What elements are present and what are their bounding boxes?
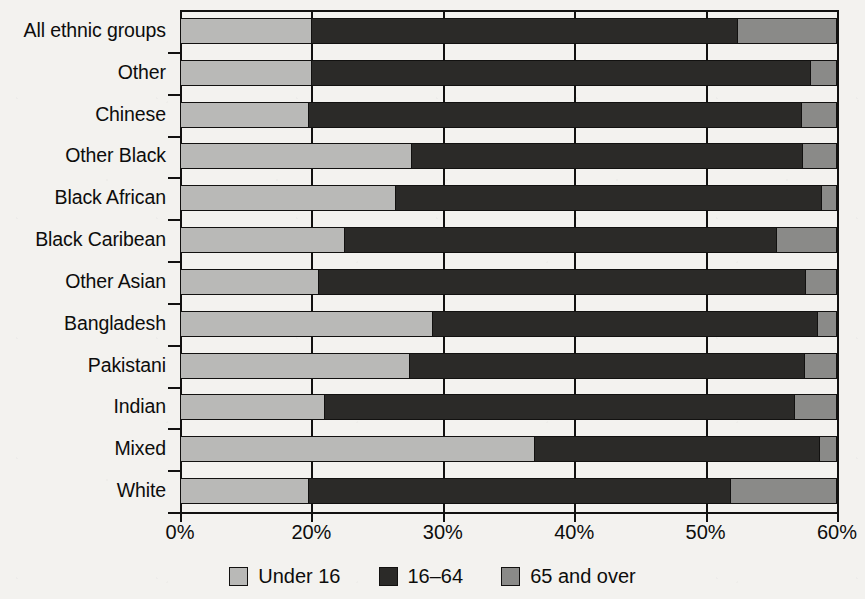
segment-under-16 — [181, 186, 396, 210]
bar-white — [180, 478, 837, 504]
segment-under-16 — [181, 19, 312, 43]
y-axis-label-white: White — [117, 481, 166, 501]
segment-65-and-over — [795, 395, 836, 419]
stacked-bar-chart: All ethnic groupsOtherChineseOther Black… — [0, 0, 865, 599]
chart-legend: Under 16 16–64 65 and over — [0, 558, 865, 594]
y-axis-label-chinese: Chinese — [95, 105, 166, 125]
segment-16-64 — [319, 270, 806, 294]
legend-label-65-and-over: 65 and over — [530, 566, 636, 586]
x-tick-label-30: 30% — [423, 521, 463, 543]
segment-65-and-over — [777, 228, 836, 252]
x-tick-label-0: 0% — [166, 521, 195, 543]
y-tick — [168, 52, 180, 54]
y-tick — [168, 136, 180, 138]
bar-black-caribean — [180, 227, 837, 253]
x-tick-40 — [574, 504, 576, 522]
light-gray-swatch-icon — [229, 567, 248, 586]
x-tick-60 — [837, 504, 839, 522]
legend-item-16-64: 16–64 — [379, 566, 464, 586]
mid-gray-swatch-icon — [501, 567, 520, 586]
bar-chinese — [180, 102, 837, 128]
y-axis-label-bangladesh: Bangladesh — [64, 314, 166, 334]
segment-65-and-over — [738, 19, 836, 43]
segment-under-16 — [181, 354, 410, 378]
segment-16-64 — [312, 61, 811, 85]
segment-16-64 — [412, 144, 804, 168]
segment-16-64 — [396, 186, 822, 210]
legend-label-16-64: 16–64 — [408, 566, 464, 586]
x-tick-label-20: 20% — [291, 521, 331, 543]
bar-mixed — [180, 436, 837, 462]
y-tick — [168, 428, 180, 430]
dark-swatch-icon — [379, 567, 398, 586]
segment-65-and-over — [818, 312, 836, 336]
bar-black-african — [180, 185, 837, 211]
y-axis-label-black-african: Black African — [55, 188, 166, 208]
y-axis-label-mixed: Mixed — [114, 439, 166, 459]
plot-frame-right — [837, 10, 839, 514]
x-tick-30 — [443, 504, 445, 522]
bar-bangladesh — [180, 311, 837, 337]
segment-65-and-over — [822, 186, 836, 210]
y-tick — [168, 94, 180, 96]
segment-under-16 — [181, 270, 319, 294]
bar-other-black — [180, 143, 837, 169]
segment-65-and-over — [806, 270, 836, 294]
segment-65-and-over — [803, 144, 836, 168]
y-tick — [168, 387, 180, 389]
y-axis-category-labels: All ethnic groupsOtherChineseOther Black… — [0, 0, 172, 512]
x-tick-0 — [180, 504, 182, 522]
segment-under-16 — [181, 61, 312, 85]
segment-under-16 — [181, 103, 309, 127]
y-tick — [168, 219, 180, 221]
x-tick-50 — [706, 504, 708, 522]
x-axis-line — [180, 512, 839, 514]
legend-item-65-and-over: 65 and over — [501, 566, 636, 586]
bar-indian — [180, 394, 837, 420]
y-axis-label-other-black: Other Black — [65, 146, 166, 166]
segment-under-16 — [181, 144, 412, 168]
x-tick-label-50: 50% — [686, 521, 726, 543]
x-tick-label-60: 60% — [817, 521, 857, 543]
legend-item-under-16: Under 16 — [229, 566, 340, 586]
segment-65-and-over — [820, 437, 836, 461]
y-tick — [168, 470, 180, 472]
y-tick — [168, 512, 180, 514]
x-tick-20 — [311, 504, 313, 522]
segment-16-64 — [309, 479, 731, 503]
segment-under-16 — [181, 479, 309, 503]
y-tick — [168, 303, 180, 305]
y-axis-label-black-caribean: Black Caribean — [35, 230, 166, 250]
bar-all-ethnic-groups — [180, 18, 837, 44]
segment-under-16 — [181, 395, 325, 419]
y-tick — [168, 261, 180, 263]
segment-65-and-over — [731, 479, 836, 503]
y-axis-label-pakistani: Pakistani — [88, 356, 166, 376]
y-axis-label-all-ethnic-groups: All ethnic groups — [24, 21, 166, 41]
y-axis-label-other-asian: Other Asian — [65, 272, 166, 292]
segment-under-16 — [181, 437, 535, 461]
segment-16-64 — [309, 103, 802, 127]
y-axis-label-other: Other — [118, 63, 166, 83]
segment-16-64 — [433, 312, 818, 336]
legend-label-under-16: Under 16 — [258, 566, 340, 586]
bar-other — [180, 60, 837, 86]
segment-16-64 — [410, 354, 804, 378]
x-tick-label-40: 40% — [554, 521, 594, 543]
bar-pakistani — [180, 353, 837, 379]
segment-16-64 — [312, 19, 738, 43]
segment-65-and-over — [805, 354, 836, 378]
segment-16-64 — [535, 437, 821, 461]
segment-under-16 — [181, 312, 433, 336]
segment-16-64 — [345, 228, 777, 252]
y-tick — [168, 177, 180, 179]
segment-65-and-over — [811, 61, 836, 85]
segment-16-64 — [325, 395, 795, 419]
y-tick — [168, 345, 180, 347]
segment-65-and-over — [802, 103, 836, 127]
y-axis-label-indian: Indian — [113, 397, 166, 417]
segment-under-16 — [181, 228, 345, 252]
bar-other-asian — [180, 269, 837, 295]
